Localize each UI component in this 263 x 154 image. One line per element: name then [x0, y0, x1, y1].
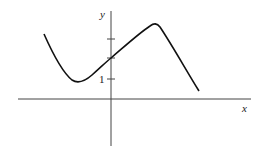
- y-tick-label-1: 1: [99, 73, 105, 85]
- function-graph: y x 1: [0, 0, 263, 154]
- y-axis-label: y: [99, 8, 105, 20]
- function-curve: [44, 24, 199, 91]
- x-axis-label: x: [241, 102, 247, 114]
